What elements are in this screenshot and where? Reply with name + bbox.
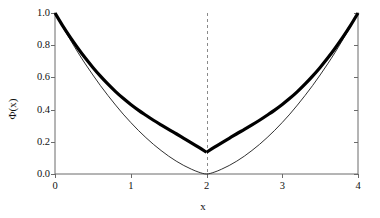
y-axis-ticks (51, 14, 55, 175)
thin-curve-path (55, 13, 358, 174)
y-tick-label: 0.6 (28, 72, 50, 83)
x-tick-label: 2 (187, 181, 227, 192)
figure-container: 0.00.20.40.60.81.0 01234 Φ(x) x (0, 0, 380, 218)
x-axis-title: x (200, 201, 206, 212)
y-tick-label: 0.2 (28, 137, 50, 148)
x-tick-label: 1 (111, 181, 151, 192)
x-tick-label: 0 (35, 181, 75, 192)
x-axis-ticks (56, 174, 359, 178)
axis-spines (55, 13, 358, 174)
y-tick-label: 1.0 (28, 8, 50, 19)
y-tick-label: 0.4 (28, 105, 50, 116)
x-tick-label: 4 (338, 181, 378, 192)
y-tick-label: 0.8 (28, 40, 50, 51)
x-tick-label: 3 (262, 181, 302, 192)
thick-curve-path (55, 13, 358, 152)
y-tick-label: 0.0 (28, 169, 50, 180)
y-axis-ticks-right (354, 14, 358, 175)
